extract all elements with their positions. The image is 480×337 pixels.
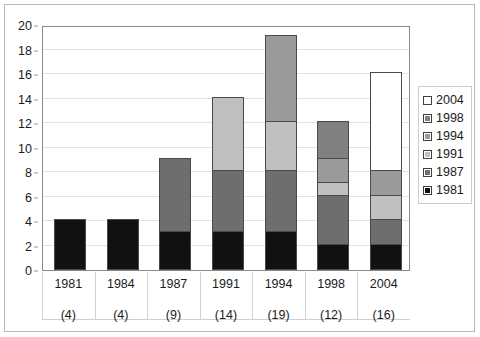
y-tick-mark: [34, 148, 38, 149]
plot-area: [42, 26, 410, 271]
bar-segment[interactable]: [160, 232, 190, 269]
bar-stack[interactable]: [317, 121, 349, 270]
x-axis-label-group: 1991(14): [200, 272, 253, 321]
bars-layer: [43, 27, 409, 270]
x-axis-label-group: 1981(4): [42, 272, 95, 321]
y-tick-label: 2: [25, 240, 32, 253]
x-axis-separator: [147, 272, 148, 319]
y-tick-label: 4: [25, 216, 32, 229]
x-axis-total-label: (9): [147, 291, 200, 322]
legend-swatch-icon: [423, 96, 432, 105]
x-axis-separator: [95, 272, 96, 319]
bar-segment[interactable]: [371, 73, 401, 171]
x-axis-year-label: 2004: [357, 272, 410, 291]
y-tick-label: 12: [18, 118, 32, 131]
bar-stack[interactable]: [54, 219, 86, 270]
legend-item[interactable]: 1994: [423, 127, 468, 145]
bar-stack[interactable]: [265, 35, 297, 270]
x-axis-separator: [305, 272, 306, 319]
legend-item[interactable]: 1991: [423, 145, 468, 163]
legend-item[interactable]: 1987: [423, 163, 468, 181]
bar-segment[interactable]: [318, 196, 348, 245]
legend-swatch-icon: [423, 114, 432, 123]
legend-label: 1994: [436, 130, 464, 143]
y-tick-label: 20: [18, 20, 32, 33]
bar-segment[interactable]: [213, 232, 243, 269]
bar-segment[interactable]: [55, 220, 85, 269]
bar-segment[interactable]: [371, 196, 401, 221]
y-tick-mark: [34, 246, 38, 247]
bar-segment[interactable]: [318, 122, 348, 159]
y-tick-mark: [34, 26, 38, 27]
bar-segment[interactable]: [371, 245, 401, 270]
y-tick-mark: [34, 75, 38, 76]
x-axis-separator: [357, 272, 358, 319]
y-tick-label: 10: [18, 142, 32, 155]
bar-segment[interactable]: [318, 159, 348, 184]
y-tick-mark: [34, 50, 38, 51]
y-tick-mark: [34, 222, 38, 223]
legend-swatch-icon: [423, 186, 432, 195]
legend: 200419981994199119871981: [418, 86, 472, 204]
y-tick-label: 0: [25, 265, 32, 278]
y-tick-mark: [34, 197, 38, 198]
x-axis-separator: [200, 272, 201, 319]
y-tick-mark: [34, 173, 38, 174]
legend-label: 1981: [436, 184, 464, 197]
y-tick-label: 6: [25, 191, 32, 204]
x-axis-label-group: 1998(12): [305, 272, 358, 321]
bar-stack[interactable]: [212, 97, 244, 271]
x-axis-year-label: 1987: [147, 272, 200, 291]
x-axis-separator: [42, 272, 43, 319]
x-axis-total-label: (4): [95, 291, 148, 322]
bar-segment[interactable]: [213, 171, 243, 232]
bar-segment[interactable]: [318, 245, 348, 270]
x-axis: 1981(4)1984(4)1987(9)1991(14)1994(19)199…: [42, 272, 410, 324]
legend-label: 1991: [436, 148, 464, 161]
x-axis-total-label: (14): [200, 291, 253, 322]
x-axis-label-group: 2004(16): [357, 272, 410, 321]
bar-segment[interactable]: [160, 159, 190, 233]
bar-stack[interactable]: [107, 219, 139, 270]
bar-segment[interactable]: [266, 122, 296, 171]
x-axis-total-label: (4): [42, 291, 95, 322]
bar-stack[interactable]: [159, 158, 191, 270]
bar-segment[interactable]: [318, 183, 348, 195]
legend-label: 2004: [436, 94, 464, 107]
legend-swatch-icon: [423, 150, 432, 159]
x-axis-label-group: 1994(19): [252, 272, 305, 321]
bar-stack[interactable]: [370, 72, 402, 270]
y-tick-mark: [34, 99, 38, 100]
legend-swatch-icon: [423, 168, 432, 177]
x-axis-label-group: 1984(4): [95, 272, 148, 321]
legend-swatch-icon: [423, 132, 432, 141]
x-axis-year-label: 1998: [305, 272, 358, 291]
legend-label: 1998: [436, 112, 464, 125]
x-axis-year-label: 1984: [95, 272, 148, 291]
x-axis-separator: [252, 272, 253, 319]
legend-item[interactable]: 1998: [423, 109, 468, 127]
y-tick-label: 14: [18, 93, 32, 106]
bar-segment[interactable]: [371, 220, 401, 245]
bar-segment[interactable]: [266, 232, 296, 269]
x-axis-year-label: 1981: [42, 272, 95, 291]
y-tick-mark: [34, 271, 38, 272]
legend-item[interactable]: 2004: [423, 91, 468, 109]
x-axis-total-label: (19): [252, 291, 305, 322]
y-tick-label: 18: [18, 44, 32, 57]
y-axis: 02468101214161820: [0, 26, 38, 271]
x-axis-total-label: (16): [357, 291, 410, 322]
bar-segment[interactable]: [213, 98, 243, 172]
legend-item[interactable]: 1981: [423, 181, 468, 199]
x-axis-label-group: 1987(9): [147, 272, 200, 321]
bar-segment[interactable]: [266, 36, 296, 122]
x-axis-total-label: (12): [305, 291, 358, 322]
y-tick-label: 16: [18, 69, 32, 82]
bar-segment[interactable]: [266, 171, 296, 232]
y-tick-label: 8: [25, 167, 32, 180]
legend-label: 1987: [436, 166, 464, 179]
x-axis-year-label: 1991: [200, 272, 253, 291]
bar-segment[interactable]: [108, 220, 138, 269]
x-axis-year-label: 1994: [252, 272, 305, 291]
bar-segment[interactable]: [371, 171, 401, 196]
